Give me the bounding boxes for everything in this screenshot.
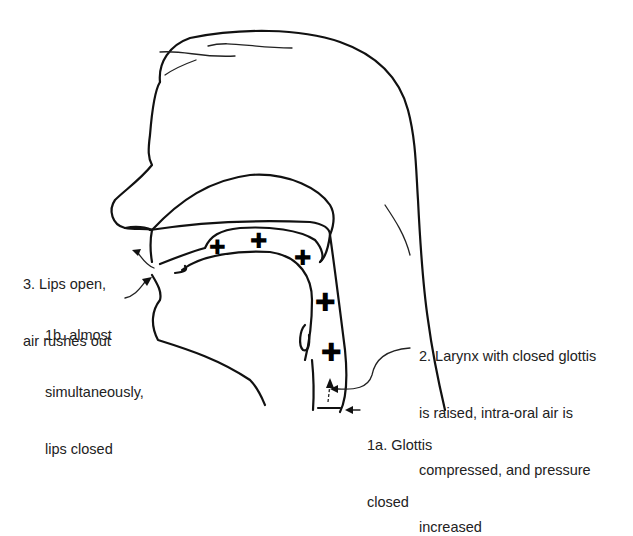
brow-line [160, 52, 235, 57]
larynx-front [312, 360, 314, 410]
epiglottis [300, 325, 309, 350]
label-line: lips closed [45, 440, 144, 459]
label-step-2: 2. Larynx with closed glottis is raised,… [419, 309, 596, 536]
label-line: simultaneously, [45, 383, 144, 402]
leader-line-2 [338, 348, 410, 389]
arrow-head-icon [345, 406, 353, 414]
chin-profile [152, 275, 265, 405]
pressure-plus-icon: ✚ [209, 237, 226, 257]
pressure-plus-icon: ✚ [321, 340, 342, 365]
label-line: increased [419, 518, 596, 536]
face-profile [112, 82, 160, 230]
tongue [175, 252, 312, 360]
pressure-plus-icon: ✚ [294, 248, 312, 269]
label-line: compressed, and pressure [419, 461, 596, 480]
head-outline [160, 31, 445, 410]
label-line: 1a. Glottis [367, 436, 432, 455]
pressure-plus-icon: ✚ [250, 231, 268, 252]
label-line: closed [367, 493, 432, 512]
upper-lip [125, 227, 152, 262]
label-step-1a: 1a. Glottis closed [367, 398, 432, 536]
pressure-plus-icon: ✚ [315, 290, 336, 315]
label-line: is raised, intra-oral air is [419, 404, 596, 423]
label-step-1b: 1b. almost simultaneously, lips closed [45, 288, 144, 497]
brow-line [208, 44, 292, 48]
arrow-head-icon [326, 378, 334, 388]
brow-line [165, 60, 196, 75]
label-line: 1b. almost [45, 326, 144, 345]
label-line: 2. Larynx with closed glottis [419, 347, 596, 366]
neck-back [385, 205, 410, 255]
